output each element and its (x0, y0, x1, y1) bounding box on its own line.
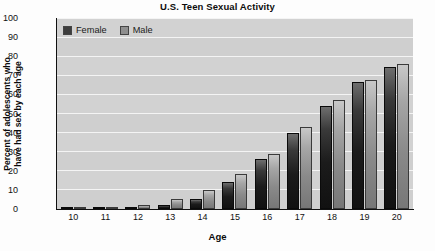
bar-group (381, 18, 413, 209)
legend-item-male[interactable]: Male (120, 25, 153, 35)
y-tick-value: 30 (8, 147, 18, 157)
y-tick-value: 90 (8, 32, 18, 42)
x-tick-label-20: 20 (377, 212, 417, 222)
y-tick-label: 30 (0, 147, 18, 157)
bar-group (284, 18, 316, 209)
bar-female-age-15[interactable] (222, 182, 234, 209)
bar-group (348, 18, 380, 209)
bar-female-age-17[interactable] (287, 133, 299, 209)
bar-group (154, 18, 186, 209)
y-tick-label: 50 (0, 109, 18, 119)
legend-label-male: Male (133, 25, 153, 35)
bar-female-age-16[interactable] (255, 159, 267, 209)
bar-group (57, 18, 89, 209)
bar-male-age-19[interactable] (365, 80, 377, 209)
x-axis-title: Age (0, 231, 435, 242)
chart-legend: Female Male (63, 25, 153, 35)
y-tick-value: 20 (8, 166, 18, 176)
chart-title: U.S. Teen Sexual Activity (0, 1, 435, 12)
y-tick-label: 60 (0, 89, 18, 99)
y-tick-label: 70 (0, 70, 18, 80)
y-tick-label: 10 (0, 185, 18, 195)
y-tick-value: 70 (8, 70, 18, 80)
bar-group (316, 18, 348, 209)
bar-groups (57, 18, 413, 209)
bar-female-age-18[interactable] (320, 106, 332, 209)
y-tick-value: 0 (13, 204, 18, 214)
bar-male-age-18[interactable] (333, 100, 345, 209)
bar-group (251, 18, 283, 209)
legend-item-female[interactable]: Female (63, 25, 107, 35)
y-tick-value: 60 (8, 89, 18, 99)
y-tick-label: 80 (0, 51, 18, 61)
y-tick-label: 20 (0, 166, 18, 176)
y-tick-label: 0 (0, 204, 18, 214)
bar-male-age-16[interactable] (268, 154, 280, 209)
y-tick-value: 100 (3, 13, 18, 23)
bar-male-age-17[interactable] (300, 127, 312, 209)
legend-swatch-female-icon (63, 26, 72, 35)
bar-male-age-15[interactable] (235, 174, 247, 209)
chart-container: U.S. Teen Sexual Activity Percent of ado… (0, 0, 435, 251)
bar-group (186, 18, 218, 209)
y-tick-value: 40 (8, 128, 18, 138)
bar-male-age-14[interactable] (203, 190, 215, 209)
y-tick-value: 50 (8, 109, 18, 119)
bar-female-age-14[interactable] (190, 199, 202, 209)
bar-female-age-20[interactable] (384, 67, 396, 209)
bar-female-age-19[interactable] (352, 82, 364, 209)
x-axis-line (56, 209, 414, 210)
bar-group (89, 18, 121, 209)
y-tick-value: 80 (8, 51, 18, 61)
y-axis-line (56, 18, 57, 210)
legend-swatch-male-icon (120, 26, 129, 35)
bar-group (219, 18, 251, 209)
legend-label-female: Female (76, 25, 107, 35)
y-tick-label: 90 (0, 32, 18, 42)
y-tick-value: 10 (8, 185, 18, 195)
y-tick-label: 100 (0, 13, 18, 23)
y-tick-label: 40 (0, 128, 18, 138)
bar-male-age-13[interactable] (171, 199, 183, 209)
bar-group (122, 18, 154, 209)
bar-male-age-20[interactable] (397, 64, 409, 209)
